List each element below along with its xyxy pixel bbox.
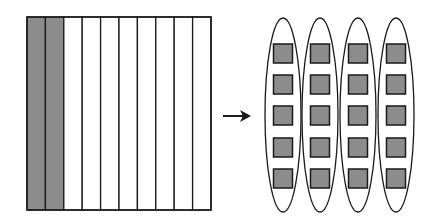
unshaded-strip [64,17,82,210]
shaded-square [311,169,330,188]
shaded-square [387,75,406,94]
shaded-square [274,138,293,157]
shaded-square [349,138,368,157]
shaded-square [311,75,330,94]
shaded-square [274,169,293,188]
shaded-square [349,106,368,125]
shaded-square [387,138,406,157]
shaded-square [387,169,406,188]
unshaded-strip [193,17,211,210]
diagram-canvas [0,0,437,221]
arrow-right-icon [223,110,251,122]
ellipse-group [265,18,301,212]
shaded-strip [45,17,63,210]
ellipse-group [302,18,338,212]
shaded-square [274,75,293,94]
shaded-square [311,44,330,63]
strip-square [27,17,211,210]
shaded-square [387,106,406,125]
shaded-square [274,44,293,63]
shaded-square [311,138,330,157]
unshaded-strip [82,17,100,210]
unshaded-strip [137,17,155,210]
shaded-square [349,169,368,188]
ellipse-group [340,18,376,212]
shaded-square [311,106,330,125]
shaded-square [274,106,293,125]
ellipse-group [378,18,414,212]
shaded-square [349,44,368,63]
unshaded-strip [156,17,174,210]
unshaded-strip [119,17,137,210]
shaded-strip [27,17,45,210]
unshaded-strip [174,17,192,210]
shaded-square [387,44,406,63]
ellipse-groups [265,18,414,212]
shaded-square [349,75,368,94]
unshaded-strip [101,17,119,210]
